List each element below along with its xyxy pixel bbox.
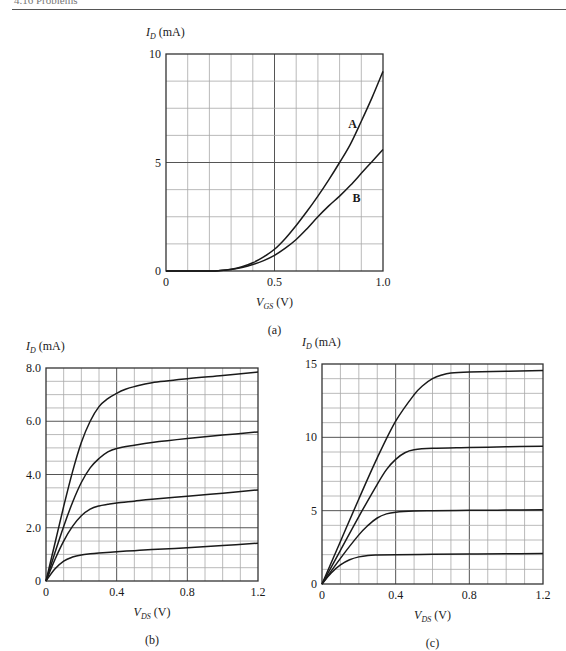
- y-tick-label: 4.0: [26, 468, 41, 482]
- chart-b: 00.40.81.202.04.06.08.0ID(mA)VDS(V)(b): [25, 339, 266, 647]
- y-axis-label: ID(mA): [301, 335, 341, 351]
- grid: [322, 364, 543, 584]
- x-tick-label: 0.4: [109, 585, 124, 599]
- x-tick-label: 0.8: [180, 585, 195, 599]
- x-tick-label: 0: [163, 275, 169, 289]
- figure-canvas: AB00.51.00510ID(mA)VGS(V)(a)00.40.81.202…: [0, 0, 566, 651]
- x-tick-label: 1.2: [536, 588, 551, 602]
- chart-c: 00.40.81.2051015ID(mA)VDS(V)(c): [301, 335, 551, 650]
- figure-caption: (c): [426, 636, 439, 650]
- x-tick-label: 0: [43, 585, 49, 599]
- figure-caption: (a): [268, 323, 281, 337]
- y-tick-label: 8.0: [26, 361, 41, 375]
- y-tick-label: 5: [311, 504, 317, 518]
- y-tick-label: 0: [311, 577, 317, 591]
- curve-label: A: [348, 117, 357, 131]
- x-tick-label: 0: [319, 588, 325, 602]
- x-tick-label: 0.4: [388, 588, 403, 602]
- x-tick-label: 1.0: [376, 275, 391, 289]
- chart-a: AB00.51.00510ID(mA)VGS(V)(a): [145, 25, 391, 337]
- y-tick-label: 10: [149, 47, 161, 61]
- x-tick-label: 0.8: [462, 588, 477, 602]
- x-tick-label: 1.2: [251, 585, 266, 599]
- y-tick-label: 0: [35, 574, 41, 588]
- figure-caption: (b): [145, 633, 159, 647]
- y-tick-label: 15: [305, 357, 317, 371]
- x-axis-label: VGS(V): [256, 295, 293, 311]
- grid: [166, 54, 383, 271]
- y-tick-label: 5: [155, 156, 161, 170]
- y-axis-label: ID(mA): [145, 25, 185, 41]
- y-tick-label: 10: [305, 430, 317, 444]
- y-axis-label: ID(mA): [25, 339, 65, 355]
- x-axis-label: VDS(V): [134, 605, 171, 621]
- y-tick-label: 0: [155, 264, 161, 278]
- y-tick-label: 2.0: [26, 521, 41, 535]
- x-axis-label: VDS(V): [414, 608, 451, 624]
- curve-label: B: [353, 191, 361, 205]
- y-tick-label: 6.0: [26, 414, 41, 428]
- x-tick-label: 0.5: [267, 275, 282, 289]
